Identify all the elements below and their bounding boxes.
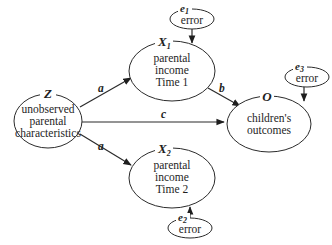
node-x2-line-2: income — [155, 171, 189, 183]
edge-label-z-x2: a — [98, 140, 104, 152]
node-o-symbol: O — [262, 89, 272, 104]
edge-label-z-o: c — [161, 108, 166, 120]
node-e2: e2 error — [168, 211, 212, 238]
node-o-line-2: outcomes — [247, 124, 292, 136]
edge-label-x1-o: b — [219, 82, 225, 94]
node-e1: e1 error — [170, 2, 214, 29]
node-x2: X2 parental income Time 2 — [129, 141, 215, 208]
node-e2-label: error — [179, 223, 202, 235]
node-x2-line-3: Time 2 — [156, 183, 189, 195]
node-e1-label: error — [181, 14, 204, 26]
node-x1: X1 parental income Time 1 — [129, 34, 215, 101]
node-z-line-1: unobserved — [21, 103, 74, 115]
edge-z-to-x2 — [80, 134, 131, 165]
node-z: Z unobserved parental characteristics — [14, 86, 82, 148]
node-o: O children's outcomes — [227, 89, 311, 152]
node-e3-label: error — [296, 72, 319, 84]
path-diagram: a a c b Z unobserved parental characteri… — [0, 0, 332, 245]
edge-z-to-x1 — [80, 78, 131, 107]
edge-label-z-x1: a — [98, 82, 104, 94]
node-z-symbol: Z — [43, 86, 52, 101]
node-x1-line-3: Time 1 — [156, 76, 189, 88]
node-x1-line-2: income — [155, 64, 189, 76]
node-o-line-1: children's — [247, 112, 292, 124]
node-e3: e3 error — [285, 60, 329, 87]
node-z-line-3: characteristics — [15, 127, 81, 139]
